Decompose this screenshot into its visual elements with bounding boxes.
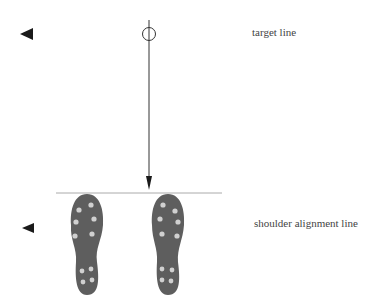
arrowhead-left-icon: [22, 223, 34, 233]
left-shoe-sole: [71, 194, 103, 295]
right-shoe-sole: [152, 194, 184, 295]
shoulder-alignment-line: [22, 223, 255, 233]
arrowhead-down-icon: [146, 176, 152, 190]
arrowhead-left-icon: [20, 28, 33, 40]
golf-alignment-diagram: [0, 0, 376, 308]
shoulder-line-label: shoulder alignment line: [254, 217, 358, 229]
target-line-label: target line: [252, 26, 296, 38]
target-line: [20, 28, 250, 41]
vertical-arrow: [146, 20, 152, 190]
